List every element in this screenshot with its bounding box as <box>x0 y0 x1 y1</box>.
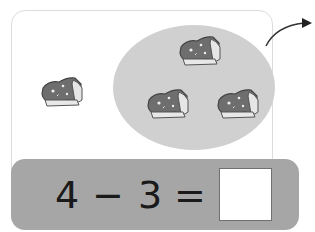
curved-arrow-icon <box>262 12 315 52</box>
blanket-icon <box>215 86 261 120</box>
blanket-icon <box>177 33 223 67</box>
equation-equals: = <box>174 170 206 220</box>
equation-minuend: 4 <box>55 170 79 220</box>
equation-subtrahend: 3 <box>138 170 162 220</box>
equation-operator: − <box>92 170 124 220</box>
blanket-icon <box>39 74 85 108</box>
blanket-icon <box>145 86 191 120</box>
answer-input-box[interactable] <box>219 168 272 221</box>
